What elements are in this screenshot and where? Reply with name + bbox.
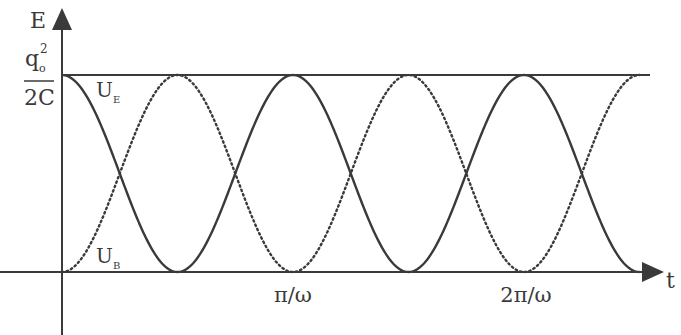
ue-label-main: U (96, 78, 113, 102)
x-axis-label: t (666, 268, 675, 293)
y-axis-label: E (30, 8, 46, 33)
y-tick-numerator: q (25, 46, 39, 71)
x-axis-arrow-icon (642, 262, 664, 282)
y-axis-arrow-icon (52, 8, 72, 30)
y-tick-numerator-sub: o (39, 62, 46, 75)
ub-label-main: U (96, 244, 113, 268)
x-tick-pi-over-omega: π/ω (274, 283, 312, 307)
y-tick-denominator: 2C (24, 85, 55, 110)
y-tick-numerator-sup: 2 (40, 42, 48, 56)
ue-label: U E (96, 78, 120, 105)
ue-label-sub: E (113, 94, 120, 105)
x-tick-2pi-over-omega: 2π/ω (500, 283, 551, 307)
energy-oscillation-chart: E t q 2 o 2C U E U B π/ω 2π/ω (0, 0, 681, 335)
ub-label-sub: B (113, 260, 120, 271)
ub-label: U B (96, 244, 120, 271)
y-tick-max-label: q 2 o 2C (24, 42, 55, 110)
